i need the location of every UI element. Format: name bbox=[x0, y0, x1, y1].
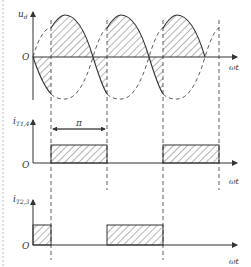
pi-label: π bbox=[75, 118, 83, 128]
ud-y-label: ud bbox=[18, 9, 28, 20]
iT23-pulse bbox=[107, 225, 163, 245]
iT23-y-label: iT2,3 bbox=[13, 194, 30, 205]
iT14-y-label: iT1,4 bbox=[13, 116, 30, 127]
ud-origin-label: O bbox=[22, 52, 30, 62]
iT23-x-label: ωt bbox=[229, 257, 240, 266]
rectifier-waveform-diagram: ud O ωt π iT1,4 O ωt iT2,3 O ωt bbox=[0, 0, 251, 267]
ud-x-label: ωt bbox=[229, 63, 240, 72]
plot-iT23: iT2,3 O ωt bbox=[13, 194, 240, 266]
ud-hatched-region bbox=[163, 15, 205, 57]
iT23-pulse bbox=[33, 225, 51, 245]
iT14-x-label: ωt bbox=[229, 177, 240, 186]
ud-hatched-region bbox=[51, 15, 93, 57]
plot-iT14: π iT1,4 O ωt bbox=[13, 116, 240, 186]
iT23-origin-label: O bbox=[22, 241, 30, 251]
iT14-origin-label: O bbox=[22, 160, 30, 170]
ud-hatched-region bbox=[33, 57, 51, 94]
ud-hatched-region bbox=[107, 15, 149, 57]
iT14-pulse bbox=[51, 145, 107, 163]
iT14-pulse bbox=[163, 145, 219, 163]
